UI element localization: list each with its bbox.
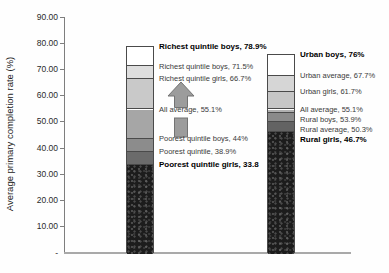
- y-tick-label: 60.00: [18, 90, 58, 101]
- bar-segment: [268, 122, 294, 131]
- segment-label: Urban boys, 76%: [300, 50, 364, 60]
- bar-segment: [127, 139, 153, 152]
- segment-label: Urban average, 67.7%: [300, 71, 375, 81]
- y-tick-mark: [60, 17, 65, 18]
- segment-label: Rural girls, 46.7%: [300, 135, 367, 145]
- urban-rural-bar: [267, 54, 295, 253]
- bar-segment: [127, 47, 153, 66]
- bar-segment: [127, 66, 153, 79]
- y-tick-mark: [60, 95, 65, 96]
- bar-segment: [268, 55, 294, 77]
- y-tick-mark: [60, 121, 65, 122]
- segment-label: Richest quintile boys, 71.5%: [159, 62, 253, 72]
- segment-label: All average, 55.1%: [300, 105, 363, 115]
- y-tick-mark: [60, 226, 65, 227]
- y-axis-line: [64, 17, 65, 253]
- y-tick-label: 90.00: [18, 12, 58, 23]
- y-tick-mark: [60, 200, 65, 201]
- segment-label: All average, 55.1%: [159, 105, 222, 115]
- y-tick-label: 80.00: [18, 38, 58, 49]
- y-tick-mark: [60, 148, 65, 149]
- y-tick-label: 70.00: [18, 64, 58, 75]
- segment-label: Urban girls, 61.7%: [300, 87, 362, 97]
- completion-rate-chart: Average primary completion rate (%) 90.0…: [0, 0, 389, 273]
- bar-segment: [268, 113, 294, 122]
- y-tick-label: 50.00: [18, 116, 58, 127]
- y-tick-label: 30.00: [18, 169, 58, 180]
- y-axis-title: Average primary completion rate (%): [4, 57, 15, 212]
- y-tick-mark: [60, 43, 65, 44]
- bar-segment: [127, 110, 153, 139]
- segment-label: Richest quintile girls, 66.7%: [159, 74, 251, 84]
- y-tick-label: -: [18, 248, 58, 259]
- bar-segment: [127, 79, 153, 109]
- segment-label: Poorest quintile, 38.9%: [159, 147, 236, 157]
- segment-label: Rural boys, 53.9%: [300, 115, 361, 125]
- segment-label: Poorest quintile boys, 44%: [159, 134, 248, 144]
- bar-segment: [268, 92, 294, 109]
- segment-label: Rural average, 50.3%: [300, 125, 373, 135]
- y-tick-label: 40.00: [18, 143, 58, 154]
- segment-label: Richest quintile boys, 78.9%: [159, 42, 267, 52]
- y-tick-mark: [60, 174, 65, 175]
- x-axis-baseline: [64, 252, 351, 254]
- y-tick-label: 20.00: [18, 195, 58, 206]
- wealth-quintile-bar: [126, 46, 154, 253]
- y-tick-mark: [60, 69, 65, 70]
- bar-segment: [127, 152, 153, 165]
- y-tick-label: 10.00: [18, 221, 58, 232]
- bar-segment: [268, 132, 294, 254]
- segment-label: Poorest quintile girls, 33.8: [159, 160, 259, 170]
- bar-segment: [268, 76, 294, 92]
- bar-segment: [127, 165, 153, 254]
